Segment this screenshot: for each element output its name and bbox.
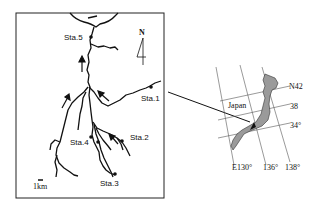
station-3-marker — [113, 172, 117, 176]
station-5-label: Sta.5 — [64, 33, 83, 42]
station-1-label: Sta.1 — [141, 94, 160, 103]
lon-label-138: 138° — [285, 163, 300, 172]
north-arrow-icon — [137, 38, 146, 65]
inset-graticule — [216, 65, 290, 165]
station-4-marker — [89, 135, 93, 139]
scale-label: 1km — [33, 182, 48, 191]
station-1-marker — [149, 85, 153, 89]
station-2-label: Sta.2 — [130, 133, 149, 142]
station-4b-marker — [96, 140, 100, 144]
lon-label-136: 136° — [263, 163, 278, 172]
lat-label-42: N42 — [289, 82, 303, 91]
station-4-label: Sta.4 — [70, 138, 89, 147]
lon-label-130: E130° — [232, 163, 252, 172]
station-2-marker — [120, 139, 124, 143]
north-label: N — [139, 28, 145, 37]
japan-label: Japan — [228, 101, 246, 110]
figure: Sta.5 Sta.1 Sta.2 Sta.3 Sta.4 N 1km Japa… — [0, 0, 320, 207]
station-5-marker — [89, 35, 93, 39]
lat-label-38: 38 — [290, 102, 298, 111]
lat-label-34: 34° — [290, 121, 301, 130]
station-3-label: Sta.3 — [100, 179, 119, 188]
